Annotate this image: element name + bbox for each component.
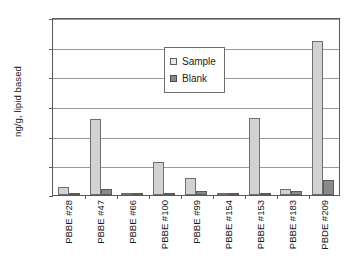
- x-axis-label: PBBE #153: [244, 200, 276, 266]
- bar-blank: [132, 193, 143, 195]
- bar-group: [212, 19, 244, 195]
- x-axis-label-text: PBBE #154: [223, 200, 234, 249]
- x-tick-mark: [117, 195, 118, 199]
- bar-group: [180, 19, 212, 195]
- bar-sample: [153, 162, 164, 195]
- x-axis-label: PBBE #47: [84, 200, 116, 266]
- x-tick-mark: [181, 195, 182, 199]
- legend: Sample Blank: [164, 47, 225, 93]
- legend-label-sample: Sample: [182, 56, 216, 67]
- x-tick-mark: [149, 195, 150, 199]
- x-axis-label-text: PBBE #66: [127, 200, 138, 244]
- bar-sample: [185, 178, 196, 195]
- y-tick-mark: [49, 196, 53, 197]
- x-axis-label: PBBE #28: [52, 200, 84, 266]
- x-axis-label-text: PBBE #47: [95, 200, 106, 244]
- legend-swatch-sample-icon: [170, 58, 177, 65]
- x-axis-label: PBBE #99: [180, 200, 212, 266]
- bar-sample: [90, 119, 101, 195]
- bar-sample: [312, 41, 323, 195]
- x-axis-labels: PBBE #28PBBE #47PBBE #66PBBE #100PBBE #9…: [52, 200, 340, 266]
- plot-area: [52, 18, 340, 196]
- bar-blank: [260, 193, 271, 195]
- x-axis-label: PBBE #66: [116, 200, 148, 266]
- bar-group: [117, 19, 149, 195]
- bar-group: [244, 19, 276, 195]
- bar-chart: ng/g, lipid based 1.21.00.80.60.40.20 PB…: [0, 0, 363, 269]
- legend-item-blank: Blank: [170, 70, 216, 87]
- x-tick-mark: [277, 195, 278, 199]
- bar-sample: [249, 118, 260, 195]
- bar-group: [275, 19, 307, 195]
- legend-item-sample: Sample: [170, 53, 216, 70]
- x-axis-label-text: PBBE #153: [255, 200, 266, 249]
- bar-blank: [164, 193, 175, 195]
- x-axis-label-text: PBDE #209: [319, 200, 330, 250]
- bar-blank: [291, 191, 302, 195]
- legend-swatch-blank-icon: [170, 75, 177, 82]
- bar-group: [85, 19, 117, 195]
- bar-sample: [121, 193, 132, 195]
- bar-sample: [280, 189, 291, 195]
- x-axis-label: PBBE #183: [276, 200, 308, 266]
- bar-blank: [69, 193, 80, 195]
- x-axis-label-text: PBBE #183: [287, 200, 298, 249]
- x-axis-label-text: PBBE #99: [191, 200, 202, 244]
- y-axis-title: ng/g, lipid based: [12, 27, 23, 177]
- bar-group: [307, 19, 339, 195]
- bar-groups: [53, 19, 339, 195]
- legend-label-blank: Blank: [182, 73, 207, 84]
- x-axis-label-text: PBBE #28: [63, 200, 74, 244]
- bar-sample: [58, 187, 69, 195]
- x-tick-mark: [309, 195, 310, 199]
- bar-sample: [217, 193, 228, 195]
- bar-blank: [323, 180, 334, 195]
- bar-blank: [196, 191, 207, 195]
- x-axis-label: PBDE #209: [308, 200, 340, 266]
- bar-group: [53, 19, 85, 195]
- x-axis-label: PBBE #154: [212, 200, 244, 266]
- x-axis-label: PBBE #100: [148, 200, 180, 266]
- bar-group: [148, 19, 180, 195]
- bar-blank: [228, 193, 239, 195]
- x-tick-mark: [85, 195, 86, 199]
- x-tick-mark: [245, 195, 246, 199]
- bar-blank: [101, 189, 112, 195]
- x-axis-label-text: PBBE #100: [159, 200, 170, 249]
- x-tick-mark: [213, 195, 214, 199]
